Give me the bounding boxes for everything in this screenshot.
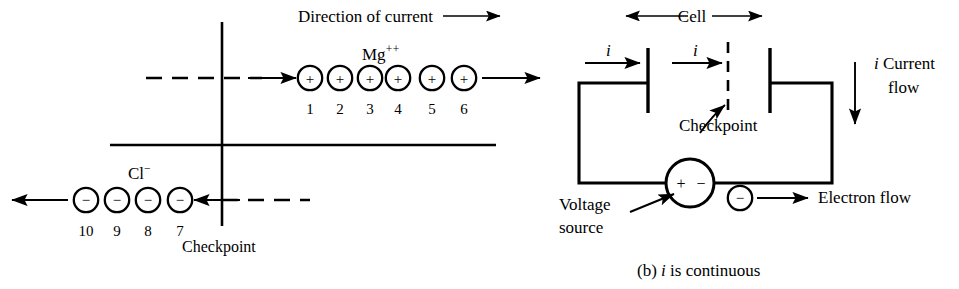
- electron-sign: −: [736, 190, 744, 207]
- cation-number-4: 4: [394, 101, 402, 118]
- cation-species-label: Mg++: [362, 44, 400, 63]
- anion-sign-8: −: [144, 192, 152, 209]
- caption-rest: is continuous: [670, 261, 760, 280]
- cation-number-1: 1: [306, 101, 314, 118]
- cation-sign-4: +: [394, 71, 402, 88]
- current-label-cell: i: [693, 42, 698, 59]
- current-flow-symbol: i: [874, 54, 879, 73]
- cell-checkpoint-label: Checkpoint: [679, 117, 757, 134]
- cation-number-2: 2: [336, 101, 344, 118]
- cation-sign-3: +: [366, 71, 374, 88]
- voltage-source-symbol: [666, 159, 714, 207]
- cation-sign-2: +: [336, 71, 344, 88]
- cation-chain: [298, 66, 476, 90]
- cation-species-base: Mg: [362, 45, 386, 64]
- cell-label: Cell: [678, 8, 706, 25]
- anion-species-label: Cl−: [128, 163, 151, 182]
- anion-species-base: Cl: [128, 164, 144, 183]
- anion-sign-9: −: [113, 192, 121, 209]
- cation-number-3: 3: [366, 101, 374, 118]
- cation-number-6: 6: [460, 101, 468, 118]
- voltage-source-minus: −: [696, 175, 705, 193]
- anion-number-10: 10: [79, 223, 94, 240]
- voltage-source-label-line2: source: [559, 219, 603, 236]
- cation-species-charge: ++: [386, 43, 400, 56]
- current-flow-word1: Current: [883, 54, 935, 73]
- anion-chain: [74, 188, 192, 212]
- direction-of-current-label: Direction of current: [298, 8, 433, 25]
- anion-number-7: 7: [176, 223, 184, 240]
- cation-sign-5: +: [428, 71, 436, 88]
- caption-symbol: i: [661, 261, 666, 280]
- diagram-canvas: [0, 0, 959, 289]
- anion-species-charge: −: [144, 162, 151, 175]
- cation-sign-6: +: [460, 71, 468, 88]
- anion-number-9: 9: [113, 223, 121, 240]
- current-flow-label-line2: flow: [888, 79, 919, 96]
- cation-number-5: 5: [428, 101, 436, 118]
- voltage-source-pointer-arrow: [630, 194, 674, 212]
- figure-current-continuity: Direction of current Mg++ Cl− Checkpoint…: [0, 0, 959, 289]
- left-checkpoint-label: Checkpoint: [182, 239, 256, 255]
- current-flow-label: i Current: [874, 55, 935, 72]
- electron-flow-label: Electron flow: [818, 189, 911, 206]
- anion-number-8: 8: [144, 223, 152, 240]
- voltage-source-plus: +: [676, 175, 685, 193]
- caption-prefix: (b): [637, 261, 657, 280]
- current-label-left: i: [606, 42, 611, 59]
- cation-sign-1: +: [306, 71, 314, 88]
- figure-caption: (b) i is continuous: [637, 262, 760, 279]
- voltage-source-label-line1: Voltage: [559, 196, 611, 213]
- anion-sign-7: −: [176, 192, 184, 209]
- anion-sign-10: −: [82, 192, 90, 209]
